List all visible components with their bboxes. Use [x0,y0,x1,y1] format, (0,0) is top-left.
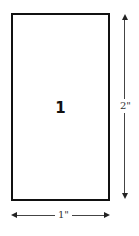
width-label: 1" [55,210,72,220]
arrow-up-icon [122,14,128,20]
height-label: 2" [120,99,131,113]
rectangle-label: 1 [13,99,108,117]
arrow-right-icon [104,212,110,218]
arrow-down-icon [122,193,128,199]
arrow-left-icon [11,212,17,218]
rectangle-shape: 1 [11,13,110,201]
